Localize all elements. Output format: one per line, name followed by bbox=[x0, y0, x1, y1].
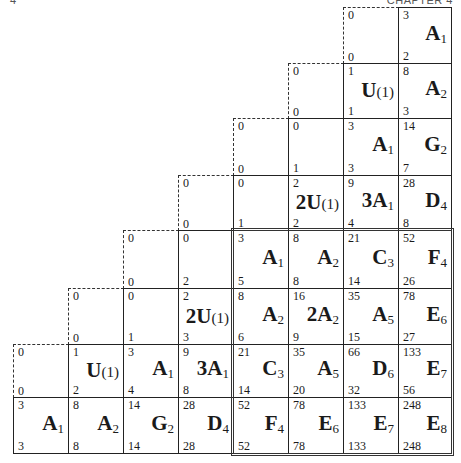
cell-bottom-number: 0 bbox=[293, 106, 299, 118]
grid-cell: 943A1 bbox=[343, 175, 399, 231]
cell-bottom-number: 2 bbox=[73, 384, 79, 396]
label-subscript: 4 bbox=[441, 198, 448, 213]
cell-bottom-number: 56 bbox=[403, 384, 415, 396]
cell-top-number: 0 bbox=[128, 232, 134, 244]
cell-top-number: 14 bbox=[128, 399, 140, 411]
label-main: A bbox=[317, 356, 332, 380]
cell-top-number: 35 bbox=[293, 346, 305, 358]
grid-cell: 147G2 bbox=[398, 118, 452, 176]
cell-bottom-number: 8 bbox=[73, 440, 79, 452]
cell-bottom-number: 248 bbox=[403, 440, 421, 452]
label-main: A bbox=[97, 411, 112, 435]
cell-algebra-label: E6 bbox=[318, 412, 339, 440]
cell-top-number: 8 bbox=[403, 65, 409, 77]
grid-cell: 00 bbox=[123, 230, 179, 289]
cell-top-number: 133 bbox=[403, 346, 421, 358]
grid-cell: 222U(1) bbox=[288, 175, 344, 231]
grid-cell: 2114C3 bbox=[233, 344, 289, 398]
cell-bottom-number: 1 bbox=[293, 162, 299, 174]
label-main: U bbox=[86, 358, 101, 382]
cell-top-number: 3 bbox=[18, 399, 24, 411]
label-subscript: 1 bbox=[223, 366, 230, 381]
label-main: E bbox=[426, 356, 440, 380]
label-main: D bbox=[425, 188, 440, 212]
cell-bottom-number: 78 bbox=[293, 440, 305, 452]
label-main: A bbox=[425, 76, 440, 100]
cell-algebra-label: A1 bbox=[262, 246, 284, 274]
cell-top-number: 0 bbox=[18, 346, 24, 358]
cell-algebra-label: A1 bbox=[425, 22, 447, 50]
label-main: A bbox=[317, 245, 332, 269]
cell-top-number: 0 bbox=[238, 120, 244, 132]
cell-top-number: 21 bbox=[238, 346, 250, 358]
cell-algebra-label: F4 bbox=[428, 246, 447, 274]
cell-top-number: 0 bbox=[73, 290, 79, 302]
label-main: 2A bbox=[307, 302, 333, 326]
cell-algebra-label: F4 bbox=[265, 412, 284, 440]
label-main: A bbox=[372, 132, 387, 156]
cell-bottom-number: 2 bbox=[403, 50, 409, 62]
cell-bottom-number: 0 bbox=[348, 51, 354, 63]
label-subscript: 2 bbox=[333, 255, 340, 270]
cell-bottom-number: 3 bbox=[183, 331, 189, 343]
cell-algebra-label: 2U(1) bbox=[296, 191, 339, 215]
cell-top-number: 28 bbox=[183, 399, 195, 411]
cell-top-number: 52 bbox=[403, 232, 415, 244]
label-main: C bbox=[372, 245, 387, 269]
label-subscript: 1 bbox=[388, 142, 395, 157]
cell-bottom-number: 52 bbox=[238, 440, 250, 452]
cell-top-number: 8 bbox=[293, 232, 299, 244]
cell-top-number: 1 bbox=[73, 346, 79, 358]
label-main: A bbox=[262, 302, 277, 326]
label-subscript: 2 bbox=[441, 142, 448, 157]
cell-algebra-label: A1 bbox=[372, 133, 394, 161]
cell-bottom-number: 4 bbox=[348, 217, 354, 229]
label-main: G bbox=[151, 411, 167, 435]
grid-cell: 35A1 bbox=[233, 230, 289, 289]
label-main: 2U bbox=[296, 190, 322, 214]
cell-bottom-number: 28 bbox=[183, 440, 195, 452]
grid-cell: 88A2 bbox=[68, 397, 124, 454]
cell-algebra-label: A5 bbox=[372, 303, 394, 331]
grid-cell: 01 bbox=[123, 288, 179, 345]
grid-cell: 133133E7 bbox=[343, 397, 399, 454]
label-main: C bbox=[262, 356, 277, 380]
label-paren: (1) bbox=[377, 84, 395, 100]
cell-algebra-label: A2 bbox=[262, 303, 284, 331]
label-subscript: 1 bbox=[388, 198, 395, 213]
label-subscript: 4 bbox=[223, 421, 230, 436]
label-main: A bbox=[425, 21, 440, 45]
label-main: 3A bbox=[362, 188, 388, 212]
cell-bottom-number: 0 bbox=[128, 276, 134, 288]
grid-cell: 13356E7 bbox=[398, 344, 452, 398]
cell-bottom-number: 3 bbox=[403, 105, 409, 117]
lie-algebra-grid-diagram: 0032A10011U(1)83A2000133A1147G20001222U(… bbox=[0, 0, 461, 463]
cell-top-number: 3 bbox=[348, 120, 354, 132]
grid-cell: 01 bbox=[288, 118, 344, 176]
grid-cell: 3515A5 bbox=[343, 288, 399, 345]
label-subscript: 2 bbox=[113, 421, 120, 436]
label-subscript: 7 bbox=[441, 366, 448, 381]
label-subscript: 3 bbox=[388, 255, 395, 270]
cell-bottom-number: 7 bbox=[403, 162, 409, 174]
label-main: F bbox=[428, 245, 441, 269]
cell-algebra-label: E7 bbox=[373, 412, 394, 440]
cell-top-number: 0 bbox=[293, 65, 299, 77]
grid-cell: 00 bbox=[343, 7, 399, 64]
label-subscript: 5 bbox=[388, 312, 395, 327]
cell-algebra-label: A5 bbox=[317, 357, 339, 385]
cell-top-number: 0 bbox=[348, 9, 354, 21]
cell-top-number: 9 bbox=[348, 177, 354, 189]
cell-bottom-number: 2 bbox=[293, 217, 299, 229]
cell-algebra-label: A2 bbox=[317, 246, 339, 274]
cell-algebra-label: E6 bbox=[426, 303, 447, 331]
cell-bottom-number: 14 bbox=[238, 384, 250, 396]
label-main: D bbox=[207, 411, 222, 435]
cell-algebra-label: E7 bbox=[426, 357, 447, 385]
cell-top-number: 0 bbox=[238, 177, 244, 189]
label-main: F bbox=[265, 411, 278, 435]
label-main: A bbox=[152, 356, 167, 380]
cell-top-number: 35 bbox=[348, 290, 360, 302]
label-subscript: 6 bbox=[388, 366, 395, 381]
label-main: 2U bbox=[186, 304, 212, 328]
